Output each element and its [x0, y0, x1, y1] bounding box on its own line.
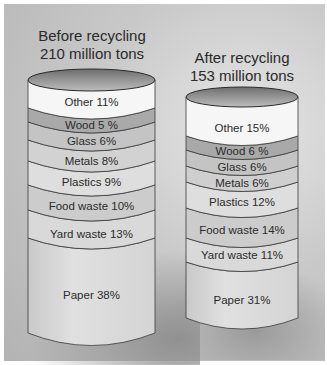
left-label-metals: Metals 8%: [65, 155, 119, 167]
right-label-paper: Paper 31%: [214, 294, 271, 306]
left-label-paper: Paper 38%: [63, 289, 120, 301]
right-label-plastics: Plastics 12%: [209, 196, 275, 208]
right-label-food-waste: Food waste 14%: [199, 224, 285, 236]
right-cylinder: Other 15% Wood 6 % Glass 6% Metals 6% Pl…: [186, 87, 298, 329]
right-label-yard-waste: Yard waste 11%: [201, 249, 283, 261]
right-label-glass: Glass 6%: [217, 161, 266, 173]
left-label-glass: Glass 6%: [67, 135, 116, 147]
right-label-wood: Wood 6 %: [216, 145, 269, 157]
left-label-yard-waste: Yard waste 13%: [50, 228, 133, 240]
left-label-food-waste: Food waste 10%: [49, 200, 135, 212]
right-label-metals: Metals 6%: [215, 177, 269, 189]
left-label-plastics: Plastics 9%: [62, 176, 121, 188]
left-cylinder-top: [28, 69, 155, 91]
left-label-wood: Wood 5 %: [65, 119, 118, 131]
right-label-other: Other 15%: [215, 122, 270, 134]
left-cylinder: Other 11% Wood 5 % Glass 6% Metals 8% Pl…: [28, 69, 155, 346]
left-label-other: Other 11%: [64, 96, 118, 108]
right-cylinder-top: [186, 87, 298, 107]
